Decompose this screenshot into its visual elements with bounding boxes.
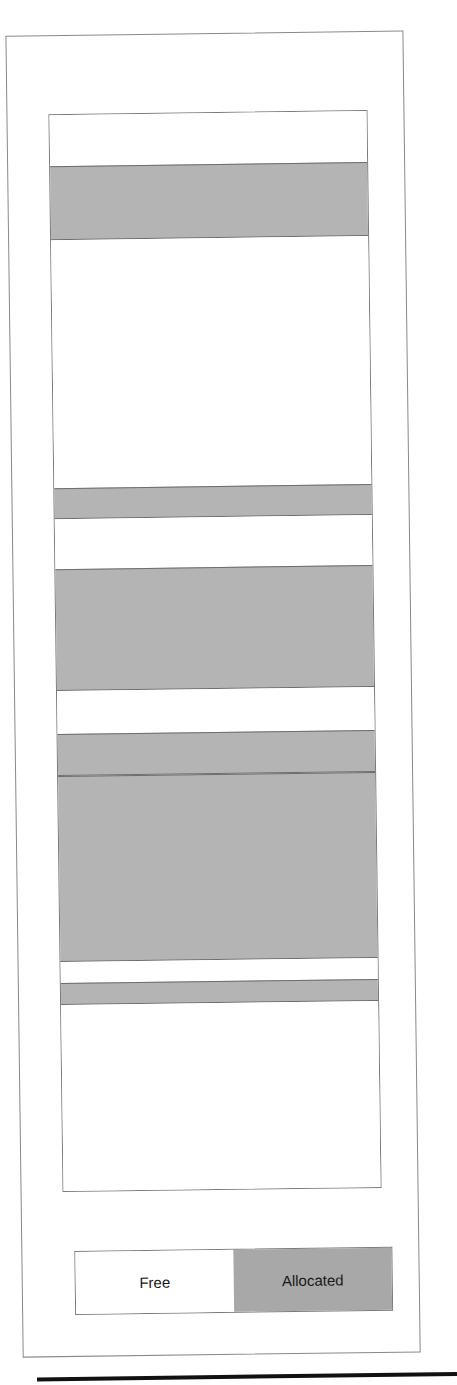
figure-sheet: Free Allocated	[0, 0, 447, 1385]
allocated-segment	[58, 730, 376, 776]
free-segment	[55, 515, 373, 569]
free-segment	[51, 236, 371, 489]
allocated-segment	[55, 565, 374, 691]
legend-free: Free	[75, 1250, 234, 1314]
legend-allocated: Allocated	[233, 1248, 392, 1312]
allocated-segment	[50, 162, 368, 240]
page-rule	[37, 1372, 457, 1381]
free-segment	[49, 111, 367, 166]
legend: Free Allocated	[74, 1247, 393, 1315]
memory-column	[48, 110, 381, 1192]
allocated-segment	[58, 772, 377, 963]
allocated-segment	[54, 484, 371, 519]
free-segment	[57, 687, 375, 734]
free-segment	[61, 1001, 380, 1191]
